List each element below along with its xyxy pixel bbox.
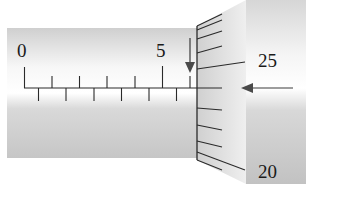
micrometer-graphic: [0, 0, 338, 208]
thimble-label-25: 25: [258, 51, 277, 70]
thimble-label-20: 20: [258, 162, 277, 181]
thimble: [246, 0, 306, 184]
micrometer-diagram: 0 5 25 20: [0, 0, 338, 208]
sleeve-label-5: 5: [156, 41, 166, 60]
sleeve-label-0: 0: [17, 41, 27, 60]
sleeve: [7, 28, 199, 158]
